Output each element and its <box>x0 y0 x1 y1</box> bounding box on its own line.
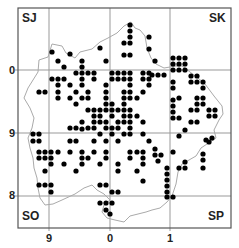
record-dot <box>134 95 139 100</box>
record-dot <box>115 189 120 194</box>
record-dot <box>134 168 139 173</box>
record-dot <box>103 138 108 143</box>
record-dot <box>97 113 102 118</box>
record-dot <box>121 119 126 124</box>
record-dot <box>109 200 114 205</box>
record-dot <box>73 70 78 75</box>
record-dot <box>67 82 72 87</box>
record-dots <box>30 22 217 216</box>
record-dot <box>164 177 169 182</box>
record-dot <box>42 182 47 187</box>
record-dot <box>107 211 112 216</box>
record-dot <box>85 95 90 100</box>
record-dot <box>42 155 47 160</box>
record-dot <box>212 107 217 112</box>
record-dot <box>42 149 47 154</box>
record-dot <box>155 72 160 77</box>
record-dot <box>170 55 175 60</box>
record-dot <box>36 182 41 187</box>
record-dot <box>206 113 211 118</box>
record-dot <box>121 131 126 136</box>
record-dot <box>140 161 145 166</box>
record-dot <box>73 168 78 173</box>
record-dot <box>79 64 84 69</box>
record-dot <box>188 119 193 124</box>
record-dot <box>127 131 132 136</box>
record-dot <box>79 95 84 100</box>
record-dot <box>140 119 145 124</box>
corner-label-sk: SK <box>209 12 226 24</box>
record-dot <box>170 79 175 84</box>
record-dot <box>97 131 102 136</box>
record-dot <box>115 125 120 130</box>
record-dot <box>194 79 199 84</box>
record-dot <box>79 82 84 87</box>
record-dot <box>73 89 78 94</box>
record-dot <box>109 189 114 194</box>
record-dot <box>79 76 84 81</box>
record-dot <box>127 28 132 33</box>
record-dot <box>79 58 84 63</box>
record-dot <box>103 95 108 100</box>
record-dot <box>188 79 193 84</box>
record-dot <box>91 125 96 130</box>
record-dot <box>182 67 187 72</box>
record-dot <box>48 182 53 187</box>
record-dot <box>109 76 114 81</box>
record-dot <box>97 107 102 112</box>
record-dot <box>97 161 102 166</box>
record-dot <box>36 149 41 154</box>
corner-label-so: SO <box>22 210 39 222</box>
corner-label-sj: SJ <box>22 12 37 24</box>
record-dot <box>85 155 90 160</box>
record-dot <box>103 125 108 130</box>
record-dot <box>79 126 84 131</box>
record-dot <box>121 70 126 75</box>
record-dot <box>121 107 126 112</box>
record-dot <box>48 161 53 166</box>
record-dot <box>109 70 114 75</box>
record-dot <box>170 103 175 108</box>
record-dot <box>42 168 47 173</box>
record-dot <box>55 58 60 63</box>
x-tick-0: 0 <box>107 233 113 244</box>
record-dot <box>161 72 166 77</box>
record-dot <box>146 34 151 39</box>
record-dot <box>85 107 90 112</box>
record-dot <box>182 127 187 132</box>
record-dot <box>170 61 175 66</box>
record-dot <box>212 113 217 118</box>
record-dot <box>103 155 108 160</box>
record-dot <box>176 67 181 72</box>
record-dot <box>55 89 60 94</box>
record-dot <box>67 95 72 100</box>
record-dot <box>127 107 132 112</box>
record-dot <box>85 89 90 94</box>
x-tick-1: 1 <box>167 233 173 244</box>
record-dot <box>200 157 205 162</box>
record-dot <box>200 79 205 84</box>
record-dot <box>79 70 84 75</box>
record-dot <box>55 95 60 100</box>
record-dot <box>73 101 78 106</box>
record-dot <box>115 168 120 173</box>
record-dot <box>97 200 102 205</box>
record-dot <box>36 138 41 143</box>
corner-label-sp: SP <box>208 210 224 222</box>
record-dot <box>200 165 205 170</box>
record-dot <box>91 107 96 112</box>
record-dot <box>103 82 108 87</box>
record-dot <box>158 152 163 157</box>
record-dot <box>115 70 120 75</box>
record-dot <box>103 101 108 106</box>
record-dot <box>97 45 102 50</box>
record-dot <box>67 125 72 130</box>
record-dot <box>170 85 175 90</box>
record-dot <box>152 152 157 157</box>
record-dot <box>48 155 53 160</box>
record-dot <box>79 161 84 166</box>
record-dot <box>103 107 108 112</box>
record-dot <box>73 138 78 143</box>
record-dot <box>194 95 199 100</box>
record-dot <box>127 95 132 100</box>
